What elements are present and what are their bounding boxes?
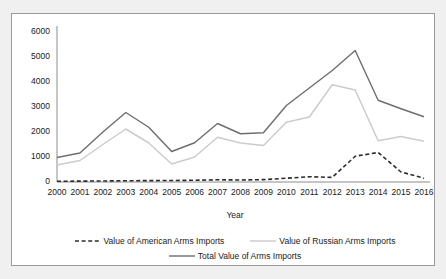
y-axis-tick-label: 0: [16, 176, 50, 186]
chart-container: 0100020003000400050006000 20002001200220…: [11, 13, 435, 266]
x-axis-title: Year: [12, 210, 446, 220]
series-line-2: [57, 51, 424, 158]
y-axis-tick-label: 6000: [16, 26, 50, 36]
line-chart-plot: [12, 14, 436, 267]
chart-axes: [57, 26, 430, 182]
y-axis-tick-label: 3000: [16, 101, 50, 111]
chart-series: [57, 51, 424, 182]
y-axis-tick-label: 5000: [16, 51, 50, 61]
legend-row: Value of American Arms ImportsValue of R…: [12, 236, 446, 246]
legend-swatch-icon: [169, 252, 195, 260]
y-axis-tick-label: 4000: [16, 76, 50, 86]
legend-swatch-icon: [250, 237, 276, 245]
legend-item[interactable]: Value of American Arms Imports: [75, 236, 225, 246]
legend-item[interactable]: Value of Russian Arms Imports: [250, 236, 395, 246]
y-axis-tick-label: 1000: [16, 151, 50, 161]
legend-label: Value of Russian Arms Imports: [279, 236, 395, 246]
legend-item[interactable]: Total Value of Arms Imports: [169, 251, 301, 261]
series-line-0: [57, 153, 424, 182]
legend-label: Value of American Arms Imports: [104, 236, 225, 246]
legend-swatch-icon: [75, 237, 101, 245]
chart-legend: Value of American Arms ImportsValue of R…: [12, 236, 446, 266]
y-axis-tick-label: 2000: [16, 126, 50, 136]
legend-row: Total Value of Arms Imports: [12, 251, 446, 261]
legend-label: Total Value of Arms Imports: [198, 251, 301, 261]
x-axis-tick-label: 2016: [411, 187, 437, 197]
